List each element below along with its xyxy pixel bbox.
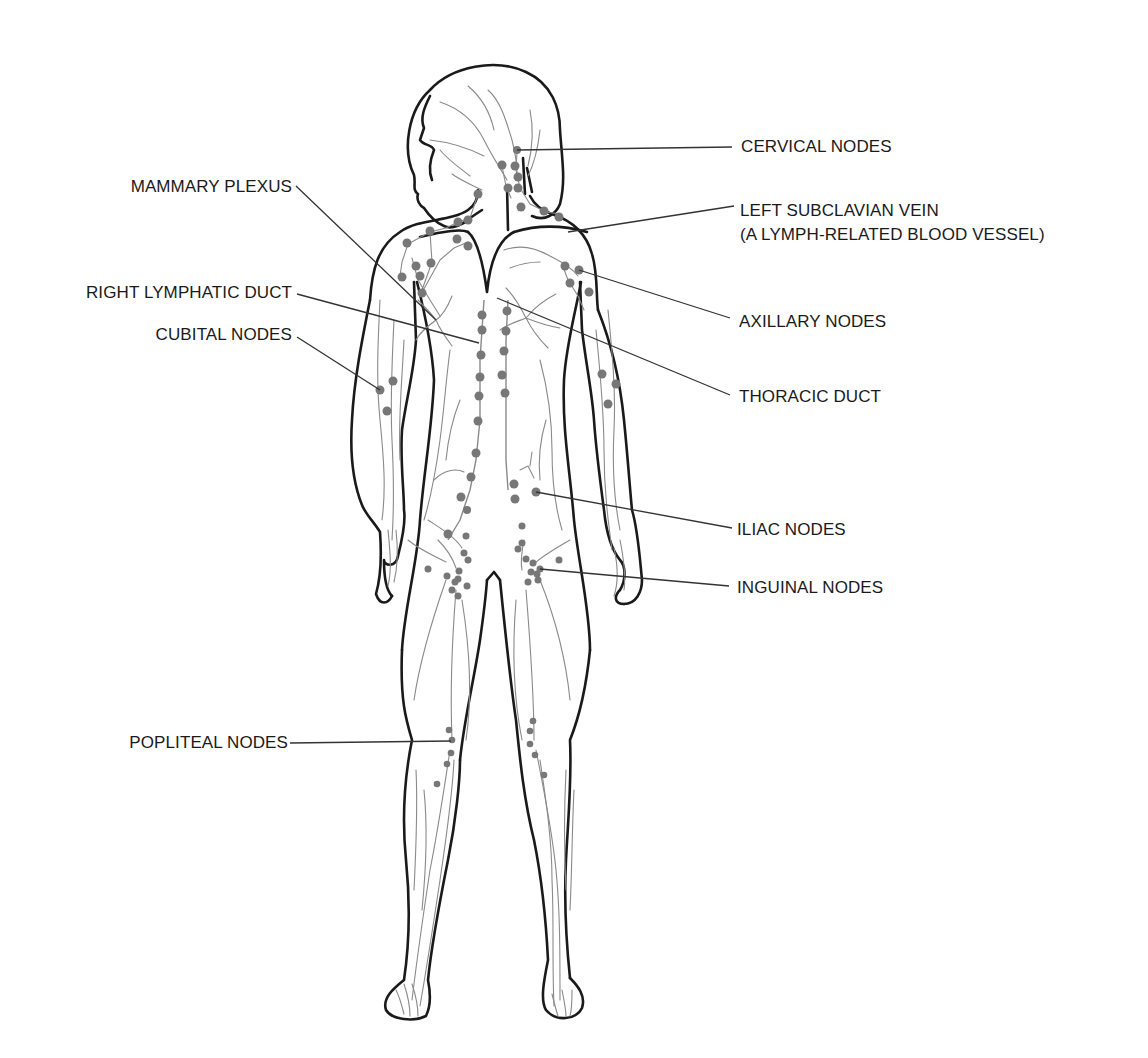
leader-lines (290, 147, 734, 743)
leader-cervical-nodes (517, 147, 732, 150)
right-leg-inner (460, 580, 487, 760)
label-iliac-nodes: ILIAC NODES (737, 520, 846, 540)
leader-inguinal-nodes (540, 569, 729, 586)
label-cervical-nodes: CERVICAL NODES (741, 137, 892, 157)
label-cubital-nodes: CUBITAL NODES (156, 325, 292, 345)
left-leg-outer (565, 650, 590, 978)
leader-left-subclavian-vein (568, 206, 734, 232)
lymphatic-system-figure (0, 0, 1148, 1058)
label-thoracic-duct: THORACIC DUCT (739, 387, 881, 407)
label-left-subclavian-vein: LEFT SUBCLAVIAN VEIN (740, 201, 939, 221)
label-popliteal-nodes: POPLITEAL NODES (129, 733, 288, 753)
label-inguinal-nodes: INGUINAL NODES (737, 578, 883, 598)
right-leg-outer (385, 650, 460, 1019)
chest-notch (468, 232, 514, 292)
right-arm-outer (351, 300, 392, 603)
left-arm-inner (580, 282, 625, 604)
leader-right-lymphatic-duct (297, 294, 479, 343)
crotch (487, 572, 500, 580)
label-axillary-nodes: AXILLARY NODES (739, 312, 886, 332)
leader-popliteal-nodes (290, 741, 451, 743)
leader-axillary-nodes (579, 270, 730, 318)
label-left-subclavian-vein-note: (A LYMPH-RELATED BLOOD VESSEL) (740, 225, 1045, 245)
label-mammary-plexus: MAMMARY PLEXUS (131, 177, 292, 197)
neck-center (507, 186, 508, 230)
leader-cubital-nodes (297, 337, 380, 390)
body-outline (351, 65, 642, 1019)
face-profile (420, 96, 434, 180)
left-torso-side (564, 282, 590, 650)
label-right-lymphatic-duct: RIGHT LYMPHATIC DUCT (86, 283, 292, 303)
